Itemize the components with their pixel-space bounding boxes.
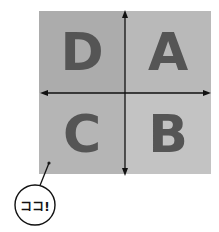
arrow-right-icon [203,90,211,96]
callout-pointer [40,161,51,185]
callout-text: ココ! [15,185,55,225]
arrow-down-icon [122,168,128,176]
arrow-left-icon [40,90,48,96]
arrow-up-icon [122,10,128,18]
